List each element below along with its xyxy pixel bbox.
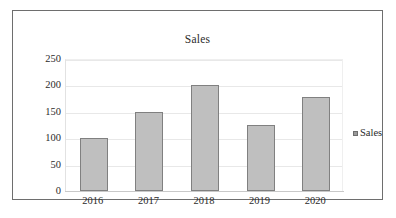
bar-2016[interactable] — [80, 138, 108, 191]
y-axis-tick-label: 0 — [27, 186, 61, 197]
x-axis: 20162017201820192020 — [65, 194, 343, 212]
chart-title: Sales — [13, 33, 382, 45]
x-axis-tick-label: 2020 — [287, 194, 343, 209]
x-axis-tick-label: 2019 — [232, 194, 288, 209]
bar-2019[interactable] — [247, 125, 275, 191]
y-axis-tick-label: 150 — [27, 107, 61, 118]
plot-area — [65, 59, 343, 191]
y-axis-tick-label: 250 — [27, 54, 61, 65]
chart-legend: Sales — [353, 128, 382, 139]
y-axis-tick-label: 200 — [27, 80, 61, 91]
legend-square-marker-icon — [353, 131, 358, 136]
x-axis-tick-label: 2016 — [65, 194, 121, 209]
legend-label-sales: Sales — [360, 128, 382, 139]
chart-frame: Sales 050100150200250 201620172018201920… — [12, 10, 383, 200]
y-axis: 050100150200250 — [27, 51, 61, 199]
x-axis-tick-label: 2018 — [176, 194, 232, 209]
x-axis-line — [65, 191, 344, 192]
bar-2020[interactable] — [302, 97, 330, 191]
x-axis-tick-label: 2017 — [120, 194, 176, 209]
gridline — [66, 60, 342, 61]
y-axis-tick-label: 100 — [27, 133, 61, 144]
bar-2018[interactable] — [191, 85, 219, 191]
y-axis-tick-label: 50 — [27, 159, 61, 170]
bar-2017[interactable] — [135, 112, 163, 191]
